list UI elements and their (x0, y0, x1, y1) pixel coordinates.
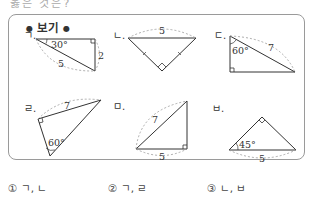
option-3[interactable]: ③ ㄴ, ㅂ (207, 180, 246, 195)
box-title-text: 보기 (37, 21, 59, 35)
base-label-f: 5 (259, 153, 265, 164)
option-text: ㄴ, ㅂ (220, 182, 247, 194)
option-text: ㄱ, ㄴ (21, 182, 48, 194)
option-number: ① (8, 182, 17, 194)
angle-label-d: 60° (48, 137, 65, 148)
answer-options: ① ㄱ, ㄴ ② ㄱ, ㄹ ③ ㄴ, ㅂ (8, 180, 308, 198)
side-label-a: 2 (98, 50, 104, 61)
option-text: ㄱ, ㄹ (121, 182, 148, 194)
hyp-label-e: 7 (152, 114, 158, 125)
option-number: ③ (207, 182, 216, 194)
bullet-icon: ● (63, 24, 70, 33)
hyp-label-b: 5 (159, 25, 165, 36)
figure-label-e: ㅁ. (113, 98, 125, 113)
option-2[interactable]: ② ㄱ, ㄹ (108, 180, 147, 195)
figure-label-d: ㄹ. (24, 100, 36, 115)
hyp-label-c: 7 (268, 42, 274, 53)
figure-label-f: ㅂ. (212, 100, 224, 115)
option-1[interactable]: ① ㄱ, ㄴ (8, 180, 47, 195)
angle-label-a: 30° (51, 39, 68, 50)
figure-label-b: ㄴ. (113, 27, 125, 42)
question-text-cutoff: 옳은 것은? (10, 0, 71, 10)
base-label-e: 5 (159, 151, 165, 162)
figure-label-a: ㄱ. (24, 27, 36, 42)
hyp-label-a: 5 (58, 58, 64, 69)
option-number: ② (108, 182, 117, 194)
angle-label-f: 45° (239, 139, 256, 150)
side-label-d: 7 (64, 100, 70, 111)
angle-label-c: 60° (232, 45, 249, 56)
figure-label-c: ㄷ. (214, 27, 226, 42)
